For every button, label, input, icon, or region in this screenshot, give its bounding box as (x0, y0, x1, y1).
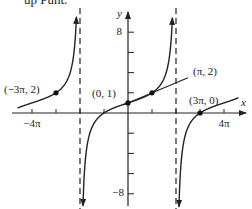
curve-right-branch (179, 98, 238, 207)
y-tick-label-8: 8 (117, 25, 123, 37)
y-axis-label: y (116, 7, 122, 19)
data-point (125, 100, 130, 105)
x-tick-label-neg4pi: −4π (23, 117, 41, 129)
data-point (197, 110, 202, 115)
labels: (−3π, 2)(0, 1)(π, 2)(3π, 0)−4π4π8−8xy (4, 7, 246, 198)
data-point (149, 90, 154, 95)
data-point (53, 90, 58, 95)
point-label-pi: (π, 2) (193, 65, 217, 78)
secant-line (123, 78, 188, 105)
line-through-points (123, 78, 188, 105)
y-tick-label-neg8: −8 (112, 186, 124, 198)
point-label-3pi: (3π, 0) (189, 94, 219, 107)
axes (12, 12, 246, 206)
point-label-origin: (0, 1) (92, 87, 116, 100)
x-axis-label: x (240, 96, 246, 108)
tangent-graph: (−3π, 2)(0, 1)(π, 2)(3π, 0)−4π4π8−8xy (0, 0, 252, 209)
point-label-neg3pi: (−3π, 2) (4, 83, 40, 96)
x-tick-label-4pi: 4π (218, 117, 230, 129)
